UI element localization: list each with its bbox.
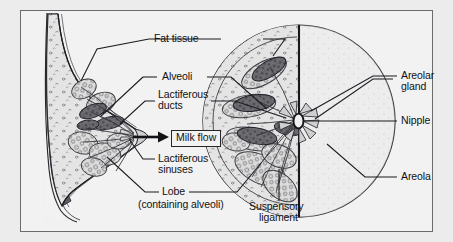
label-lobe: Lobe	[162, 186, 185, 198]
label-fat-tissue: Fat tissue	[154, 33, 199, 45]
label-alveoli: Alveoli	[162, 71, 192, 83]
breast-anatomy-illustration	[21, 11, 432, 231]
label-suspensory-line2: ligament	[259, 212, 298, 224]
label-lobe-sub: (containing alveoli)	[138, 199, 224, 211]
label-areola: Areola	[401, 171, 431, 183]
sagittal-view	[43, 13, 148, 229]
label-lactiferous-ducts-line2: ducts	[158, 100, 183, 112]
label-nipple: Nipple	[401, 115, 430, 127]
nipple-frontal	[294, 114, 304, 129]
figure-page: Fat tissue Alveoli Lactiferous ducts Mil…	[0, 0, 453, 242]
figure-frame: Fat tissue Alveoli Lactiferous ducts Mil…	[20, 10, 433, 232]
leader-fat-tissue-left	[81, 39, 149, 81]
label-lactiferous-sinuses-line2: sinuses	[158, 164, 193, 176]
leader-ducts-left	[120, 101, 155, 124]
label-areolar-gland-line2: gland	[401, 81, 426, 93]
milk-flow-badge: Milk flow	[171, 130, 221, 147]
